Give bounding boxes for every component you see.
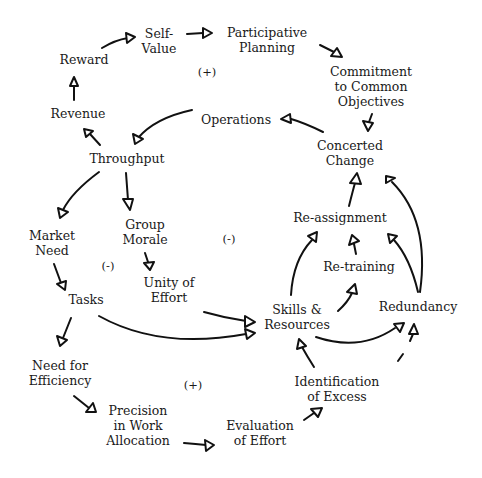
node-commitment: Commitment to Common Objectives: [330, 64, 412, 109]
node-identification-of-excess: Identification of Excess: [295, 374, 380, 404]
loop-sign-middle-left: (-): [102, 259, 115, 273]
node-label: Objectives: [330, 94, 412, 109]
node-revenue: Revenue: [51, 106, 106, 121]
node-label: Revenue: [51, 106, 106, 121]
node-label: Evaluation: [226, 418, 294, 433]
node-need-for-efficiency: Need for Efficiency: [29, 358, 92, 388]
node-label: of Effort: [226, 433, 294, 448]
node-participative-planning: Participative Planning: [227, 25, 307, 55]
node-label: Redundancy: [379, 299, 457, 314]
node-tasks: Tasks: [68, 292, 103, 307]
node-label: Value: [142, 41, 177, 56]
node-reward: Reward: [60, 52, 109, 67]
node-label: Allocation: [106, 433, 170, 448]
node-label: Group: [122, 217, 167, 232]
node-market-need: Market Need: [29, 228, 75, 258]
node-reassignment: Re-assignment: [293, 210, 387, 225]
node-label: Resources: [264, 317, 330, 332]
node-label: Re-training: [323, 259, 395, 274]
node-label: Re-assignment: [293, 210, 387, 225]
node-self-value: Self- Value: [142, 26, 177, 56]
loop-sign-top: (+): [198, 65, 217, 79]
node-label: Tasks: [68, 292, 103, 307]
node-label: to Common: [330, 79, 412, 94]
node-label: Self-: [142, 26, 177, 41]
node-label: Identification: [295, 374, 380, 389]
node-label: Concerted: [317, 138, 383, 153]
node-label: Throughput: [89, 151, 164, 166]
node-label: in Work: [106, 418, 170, 433]
node-label: Operations: [201, 112, 271, 127]
node-label: Effort: [144, 290, 195, 305]
node-label: Morale: [122, 232, 167, 247]
node-unity-of-effort: Unity of Effort: [144, 275, 195, 305]
node-label: Change: [317, 153, 383, 168]
node-label: Precision: [106, 403, 170, 418]
node-throughput: Throughput: [89, 151, 164, 166]
node-label: Participative: [227, 25, 307, 40]
node-label: Skills &: [264, 302, 330, 317]
node-label: of Excess: [295, 389, 380, 404]
node-evaluation-of-effort: Evaluation of Effort: [226, 418, 294, 448]
node-label: Need for: [29, 358, 92, 373]
node-concerted-change: Concerted Change: [317, 138, 383, 168]
node-label: Unity of: [144, 275, 195, 290]
node-label: Market: [29, 228, 75, 243]
node-label: Reward: [60, 52, 109, 67]
node-retraining: Re-training: [323, 259, 395, 274]
node-label: Need: [29, 243, 75, 258]
loop-sign-bottom: (+): [184, 378, 203, 392]
causal-loop-diagram: Self- Value Participative Planning Rewar…: [0, 0, 482, 478]
node-label: Commitment: [330, 64, 412, 79]
node-label: Efficiency: [29, 373, 92, 388]
node-operations: Operations: [201, 112, 271, 127]
node-skills-resources: Skills & Resources: [264, 302, 330, 332]
loop-sign-middle-right: (-): [223, 232, 236, 246]
node-redundancy: Redundancy: [379, 299, 457, 314]
node-precision-in-work-allocation: Precision in Work Allocation: [106, 403, 170, 448]
node-label: Planning: [227, 40, 307, 55]
node-group-morale: Group Morale: [122, 217, 167, 247]
